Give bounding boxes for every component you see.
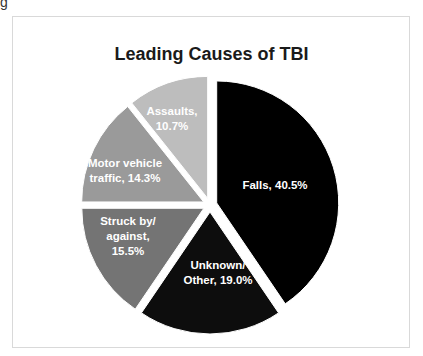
slice-label: Falls, 40.5% — [242, 179, 307, 191]
pie-chart: Falls, 40.5%Unknown/Other, 19.0%Struck b… — [0, 0, 423, 356]
